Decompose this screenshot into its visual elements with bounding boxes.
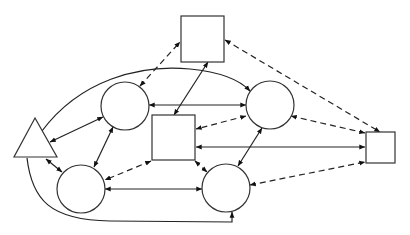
node-circle-bottom-right[interactable] (202, 164, 250, 212)
node-triangle[interactable] (14, 118, 57, 157)
node-circle-bottom-left[interactable] (57, 165, 105, 213)
nodes (14, 16, 395, 213)
node-rect-right[interactable] (366, 132, 395, 163)
edge-rect-center-circle-bottom-right (195, 161, 207, 172)
node-rect-top[interactable] (181, 16, 224, 62)
edge-rect-center-circle-bottom-left (105, 161, 151, 180)
network-diagram (0, 0, 410, 235)
edge-triangle-to-circle-top-left (50, 117, 103, 142)
node-circle-top-right[interactable] (246, 81, 294, 129)
edge-circle-top-right-rect-center (196, 116, 246, 129)
edge-circle-top-left-circle-bottom-left (94, 127, 113, 167)
node-rect-center[interactable] (152, 115, 195, 160)
node-circle-top-left[interactable] (101, 82, 149, 130)
edge-circle-top-left-rect-top (140, 42, 180, 86)
edge-rect-top-rect-center (174, 62, 208, 115)
edge-triangle-circle-bottom-left (46, 159, 62, 172)
edge-circle-bottom-right-rect-right (250, 162, 365, 185)
edge-circle-top-right-rect-right (291, 116, 365, 133)
